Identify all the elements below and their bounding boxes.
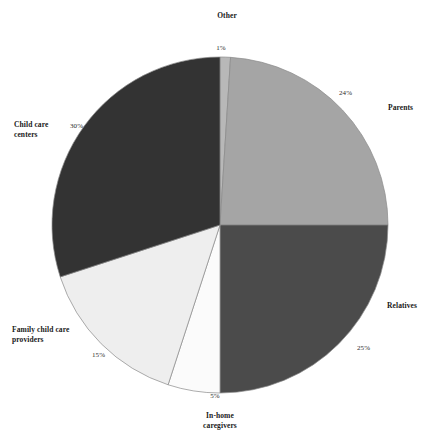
slice-label-child-care-centers: Child care centers [14,120,76,140]
slice-value-relatives: 25% [357,344,387,352]
pie-slice-parents[interactable] [220,57,388,225]
slice-value-child-care-centers: 30% [70,122,100,130]
slice-label-in-home-caregivers: In-home caregivers [170,411,270,431]
slice-value-in-home-caregivers: 5% [200,392,230,400]
pie-slice-relatives[interactable] [220,225,388,393]
slice-value-family-child-care-providers: 15% [92,351,122,359]
slice-label-relatives: Relatives [387,301,443,311]
slice-value-other: 1% [206,44,236,52]
slice-label-other: Other [197,11,257,21]
pie-chart-canvas [0,0,443,447]
slice-label-parents: Parents [388,103,442,113]
pie-chart: Other 1% Parents 24% Relatives 25% In-ho… [0,0,443,447]
slice-label-family-child-care-providers: Family child care providers [12,325,112,345]
slice-value-parents: 24% [339,89,369,97]
